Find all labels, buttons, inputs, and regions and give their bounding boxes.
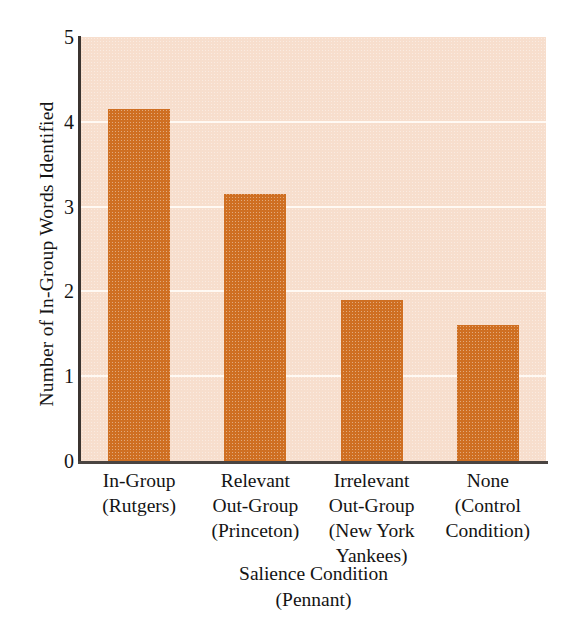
x-axis-tick-labels: In-Group(Rutgers)RelevantOut-Group(Princ… [81, 468, 546, 560]
y-tick-label: 1 [48, 366, 74, 386]
bar-chart-figure: Number of In-Group Words Identified 5432… [0, 0, 571, 629]
bar [108, 109, 170, 461]
plot-area [81, 37, 546, 461]
x-tick-label: In-Group(Rutgers) [81, 468, 197, 518]
x-tick-label-line: (New York [314, 518, 430, 543]
y-axis-line [78, 36, 81, 462]
y-axis-tick-labels: 543210 [48, 37, 74, 461]
x-axis-title-line: (Pennant) [81, 587, 546, 613]
x-tick-label: RelevantOut-Group(Princeton) [197, 468, 313, 543]
x-tick-label-line: None [430, 468, 546, 493]
bar [224, 194, 286, 461]
x-tick-label-line: Out-Group [314, 493, 430, 518]
y-tick-label: 5 [48, 27, 74, 47]
x-tick-label-line: Relevant [197, 468, 313, 493]
x-tick-label-line: Irrelevant [314, 468, 430, 493]
x-tick-label-line: Condition) [430, 518, 546, 543]
bar [457, 325, 519, 461]
y-tick-label: 2 [48, 281, 74, 301]
x-tick-label-line: In-Group [81, 468, 197, 493]
x-tick-label: None(ControlCondition) [430, 468, 546, 543]
x-tick-label-line: (Rutgers) [81, 493, 197, 518]
y-tick-label: 3 [48, 197, 74, 217]
x-tick-label-line: Out-Group [197, 493, 313, 518]
x-axis-title: Salience Condition(Pennant) [81, 561, 546, 613]
y-tick-label: 4 [48, 112, 74, 132]
x-tick-label-line: (Princeton) [197, 518, 313, 543]
y-tick-label: 0 [48, 451, 74, 471]
x-tick-label: IrrelevantOut-Group(New YorkYankees) [314, 468, 430, 568]
x-axis-line [78, 461, 548, 464]
x-axis-title-line: Salience Condition [81, 561, 546, 587]
bar [341, 300, 403, 461]
x-tick-label-line: (Control [430, 493, 546, 518]
